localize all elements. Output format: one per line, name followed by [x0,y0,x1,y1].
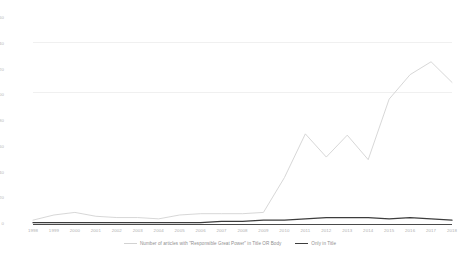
line-chart: 020406080100120140160 199819992000200120… [0,0,460,259]
legend-swatch-icon [124,243,137,244]
legend-label: Only in Title [311,241,336,246]
series-layer [0,0,460,259]
chart-legend: Number of articles with "Responsible Gre… [0,241,460,246]
series-line-articles-title-or-body [33,62,452,220]
legend-item-only-in-title: Only in Title [295,241,336,246]
legend-item-articles-title-or-body: Number of articles with "Responsible Gre… [124,241,281,246]
legend-swatch-icon [295,243,308,244]
legend-label: Number of articles with "Responsible Gre… [140,241,281,246]
series-line-only-in-title [33,218,452,223]
